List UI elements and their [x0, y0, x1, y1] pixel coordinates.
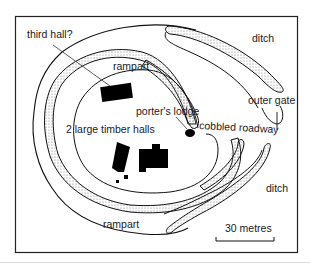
- post-small-1: [124, 175, 128, 179]
- enclosure-plan-diagram: third hall? rampart porter's lodge 2 lar…: [0, 0, 310, 269]
- label-rampart-bottom: rampart: [103, 218, 139, 230]
- label-ditch-bottom: ditch: [266, 182, 288, 194]
- page-divider: [0, 262, 310, 263]
- label-porters-lodge: porter's lodge: [136, 105, 199, 117]
- porters-lodge-building: [185, 129, 195, 137]
- label-ditch-top: ditch: [252, 32, 274, 44]
- label-timber-halls: 2 large timber halls: [66, 123, 155, 135]
- post-small-2: [116, 180, 119, 183]
- label-rampart-top: rampart: [113, 60, 149, 72]
- label-third-hall: third hall?: [27, 28, 73, 40]
- label-scale: 30 metres: [225, 222, 272, 234]
- diagram-frame: [16, 17, 298, 253]
- label-outer-gate: outer gate: [248, 94, 295, 106]
